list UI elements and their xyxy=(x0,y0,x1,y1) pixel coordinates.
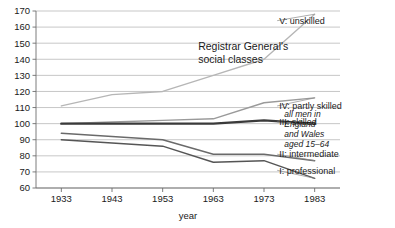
y-tick-label-110: 110 xyxy=(15,102,30,113)
series-label-4: I: professional xyxy=(279,166,335,176)
series-line-0 xyxy=(61,14,314,106)
y-tick-label-170: 170 xyxy=(14,5,30,16)
y-tick-label-150: 150 xyxy=(14,38,30,49)
x-tick-label-1963: 1963 xyxy=(203,193,224,204)
y-tick-label-80: 80 xyxy=(19,150,30,161)
x-tick-label-1983: 1983 xyxy=(304,193,325,204)
y-tick-label-130: 130 xyxy=(14,70,30,81)
x-tick-label-1943: 1943 xyxy=(101,193,122,204)
y-tick-label-160: 160 xyxy=(14,21,30,32)
population-note-line-3: and Wales xyxy=(284,129,325,139)
x-tick-label-1973: 1973 xyxy=(253,193,274,204)
x-axis-title: year xyxy=(179,210,197,221)
line-chart: 17016015014013012011010090807060 1933194… xyxy=(0,0,395,228)
registrar-general-caption-line-1: Registrar General's xyxy=(198,40,288,52)
series-label-0: V: unskilled xyxy=(279,16,325,26)
registrar-general-caption-line-2: social classes xyxy=(198,53,263,65)
series-line-3 xyxy=(61,133,314,160)
y-tick-label-120: 120 xyxy=(14,86,30,97)
y-tick-label-100: 100 xyxy=(14,118,30,129)
population-note-line-1: all men in xyxy=(284,109,321,119)
population-note-line-4: aged 15–64 xyxy=(284,139,329,149)
x-tick-label-1953: 1953 xyxy=(152,193,173,204)
series-label-3: II: intermediate xyxy=(279,149,339,159)
y-tick-label-70: 70 xyxy=(19,166,30,177)
chart-annotations: Registrar General'ssocial classesall men… xyxy=(198,40,329,150)
x-tick-label-1933: 1933 xyxy=(51,193,72,204)
chart-container: 17016015014013012011010090807060 1933194… xyxy=(0,0,395,228)
y-tick-label-60: 60 xyxy=(19,182,30,193)
series-line-1 xyxy=(61,98,314,124)
series-line-4 xyxy=(61,140,314,179)
y-tick-label-90: 90 xyxy=(19,134,30,145)
series-labels: V: unskilledIV: partly skilledIII: skill… xyxy=(279,16,342,176)
x-axis-ticks: 193319431953196319731983 xyxy=(51,188,325,204)
population-note-line-2: England xyxy=(284,119,315,129)
y-tick-label-140: 140 xyxy=(14,54,30,65)
y-axis-ticks: 17016015014013012011010090807060 xyxy=(14,5,36,193)
